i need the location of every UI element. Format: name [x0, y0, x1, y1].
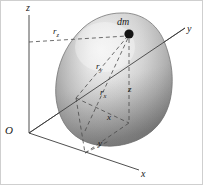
- coord-y-label: y: [98, 139, 102, 148]
- r-y-label: ry: [96, 62, 102, 73]
- r-y-subscript: y: [100, 66, 103, 73]
- r-x-subscript: x: [104, 92, 107, 99]
- figure-canvas: z y x O dm rz ry rx z x y: [0, 0, 203, 185]
- dm-point: [124, 29, 133, 38]
- r-z-subscript: z: [57, 31, 60, 38]
- r-z-label: rz: [53, 27, 59, 38]
- blob-highlight: [75, 22, 135, 72]
- origin-label: O: [5, 125, 13, 136]
- r-x-label: rx: [100, 88, 106, 99]
- rigid-body-blob: [51, 11, 176, 149]
- z-axis-label: z: [26, 3, 30, 13]
- y-axis-label: y: [187, 24, 191, 34]
- dm-label: dm: [117, 17, 129, 27]
- coord-z-label: z: [128, 85, 132, 94]
- coord-x-label: x: [107, 113, 111, 122]
- x-axis-label: x: [141, 169, 145, 179]
